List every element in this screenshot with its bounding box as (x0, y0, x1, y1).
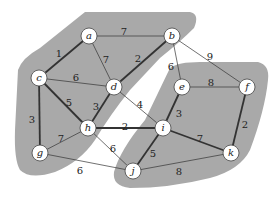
edge-weight-e-i: 3 (176, 108, 182, 119)
edge-weight-d-h: 3 (93, 101, 99, 112)
node-k: k (223, 145, 239, 161)
node-label: i (161, 122, 164, 133)
graph-diagram: 717269653348327626578 abcdefghijk (0, 0, 278, 197)
edge-weight-a-c: 1 (56, 48, 62, 59)
node-label: g (37, 147, 43, 158)
edge-c-g (39, 78, 40, 153)
node-label: e (179, 81, 185, 92)
edge-weight-a-d: 7 (103, 54, 109, 65)
edge-weight-i-j: 5 (150, 148, 156, 159)
edge-weight-f-k: 2 (242, 119, 248, 130)
node-g: g (32, 145, 48, 161)
node-label: a (86, 30, 92, 41)
edge-weight-b-e: 6 (168, 61, 174, 72)
edge-weight-a-b: 7 (121, 26, 127, 37)
edge-weight-c-g: 3 (29, 114, 35, 125)
node-c: c (31, 70, 47, 86)
node-d: d (106, 79, 122, 95)
edge-weight-b-d: 2 (135, 53, 141, 64)
edge-weight-c-h: 5 (66, 97, 72, 108)
node-label: h (85, 122, 91, 133)
node-j: j (125, 163, 141, 179)
edge-weight-i-k: 7 (197, 133, 203, 144)
node-b: b (164, 28, 180, 44)
edge-weight-h-j: 6 (110, 143, 116, 154)
node-f: f (239, 79, 255, 95)
edge-weight-h-i: 2 (122, 121, 128, 132)
node-label: d (111, 81, 117, 92)
node-h: h (80, 120, 96, 136)
node-label: c (36, 72, 42, 83)
edge-weight-d-i: 4 (137, 99, 143, 110)
node-i: i (155, 120, 171, 136)
edge-weight-j-k: 8 (176, 166, 182, 177)
edge-weight-c-d: 6 (73, 72, 79, 83)
edge-weight-g-j: 6 (77, 165, 83, 176)
edge-weight-e-f: 8 (208, 77, 214, 88)
node-e: e (174, 79, 190, 95)
edge-weight-b-f: 9 (207, 51, 213, 62)
node-a: a (81, 28, 97, 44)
node-label: b (169, 30, 175, 41)
node-label: k (228, 147, 234, 158)
edge-weight-g-h: 7 (58, 133, 64, 144)
